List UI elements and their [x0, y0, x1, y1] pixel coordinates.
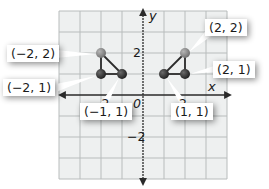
- point-2-2: [180, 48, 190, 58]
- label-neg1-1: (−1, 1): [80, 103, 132, 120]
- tick-origin: 0: [133, 96, 141, 111]
- point-1-1: [159, 69, 169, 79]
- label-2-1: (2, 1): [213, 61, 255, 78]
- point-neg2-2: [96, 48, 106, 58]
- label-2-2: (2, 2): [205, 19, 247, 36]
- label-neg2-1: (−2, 1): [3, 79, 55, 96]
- x-axis-label: x: [208, 79, 216, 94]
- point-neg2-1: [96, 69, 106, 79]
- y-axis-label: y: [149, 8, 157, 23]
- tick-y-neg2: −2: [127, 129, 145, 144]
- label-1-1: (1, 1): [171, 103, 213, 120]
- point-2-1: [180, 69, 190, 79]
- label-neg2-2: (−2, 2): [7, 45, 59, 62]
- coordinate-figure: y x −2 0 2 2 −2 (−2, 2) (−2, 1) (−1, 1) …: [0, 0, 269, 189]
- point-neg1-1: [117, 69, 127, 79]
- tick-y-pos2: 2: [133, 45, 141, 60]
